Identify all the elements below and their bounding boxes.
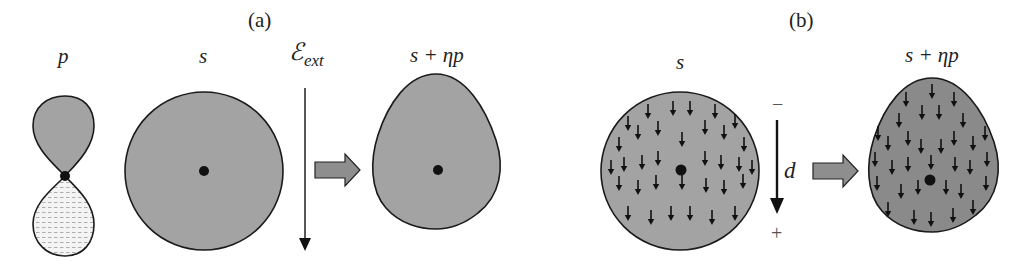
- plus-sign: +: [771, 222, 782, 245]
- p-orbital: [33, 96, 94, 256]
- p-orbital-upper-lobe: [33, 96, 94, 176]
- hybrid-orbital-a: [373, 74, 500, 229]
- minus-sign: −: [772, 93, 783, 116]
- nucleus: [925, 175, 936, 186]
- hybrid-orbital-b: [869, 78, 998, 232]
- s-orbital-b: [601, 92, 759, 250]
- dipole-arrow: [770, 120, 784, 214]
- field-symbol: ℰ: [289, 39, 304, 65]
- nucleus: [676, 165, 687, 176]
- p-orbital-lower-lobe: [33, 176, 94, 256]
- s-orbital-label: s: [199, 44, 207, 69]
- p-orbital-nucleus: [60, 171, 70, 181]
- hybrid-label-a: s + ηp: [410, 43, 464, 68]
- external-field-arrow: [299, 88, 311, 251]
- panel-a-label: (a): [248, 8, 271, 33]
- field-label: ℰext: [289, 38, 324, 71]
- dipole-label: d: [784, 158, 796, 184]
- transform-arrow-a: [315, 154, 360, 186]
- nucleus: [199, 166, 209, 176]
- figure: (a) p s ℰext s + ηp (b) s − d + s + ηp: [0, 0, 1026, 272]
- panel-a: [33, 74, 500, 256]
- p-orbital-label: p: [58, 44, 69, 69]
- s-orbital-label-b: s: [676, 50, 684, 75]
- nucleus: [433, 165, 443, 175]
- transform-arrow-b: [813, 155, 858, 187]
- diagram-canvas: [0, 0, 1026, 272]
- hybrid-label-b: s + ηp: [905, 43, 959, 68]
- s-orbital-a: [125, 92, 283, 250]
- field-subscript: ext: [304, 51, 324, 70]
- panel-b-label: (b): [789, 8, 814, 33]
- panel-b: [601, 78, 998, 250]
